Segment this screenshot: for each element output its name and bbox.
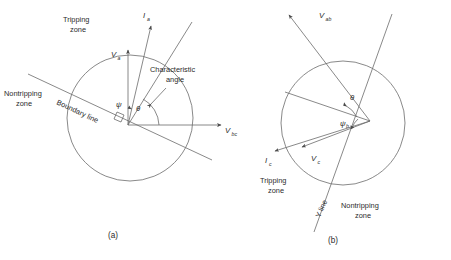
ia-label-main: I	[143, 11, 146, 20]
nontripping-zone-label-b-line1: Nontripping	[341, 201, 379, 210]
vab-vector-label-b: V ab	[319, 11, 331, 22]
nontripping-zone-label-a-line1: Nontripping	[4, 89, 42, 98]
tripping-zone-label-a-line1: Tripping	[63, 15, 89, 24]
vab-label-main: V	[319, 11, 325, 20]
vbc-label-sub: bc	[232, 131, 238, 137]
nontripping-zone-label-b-line2: zone	[355, 211, 371, 220]
tripping-zone-label-a-line2: zone	[70, 25, 86, 34]
vc-label-sub: c	[318, 159, 321, 165]
vbc-axis-label-shared: V	[225, 126, 231, 135]
theta-arc-a	[143, 99, 159, 125]
psi-angle-label-b-sub: b	[346, 123, 349, 129]
nontripping-zone-label-a-line2: zone	[16, 99, 32, 108]
vab-vector-line-b	[289, 15, 370, 121]
ic-vector-label-b: I c	[265, 156, 272, 167]
right-angle-marker-a	[114, 112, 124, 122]
panel-caption-a: (a)	[108, 231, 118, 240]
characteristic-angle-label-line1: Characteristic	[150, 65, 195, 74]
y-line-label-b: Y line	[314, 198, 330, 218]
panel-a: Tripping zone Nontripping zone Boundary …	[4, 11, 237, 240]
figure-container: Tripping zone Nontripping zone Boundary …	[0, 0, 451, 260]
tripping-zone-label-b-line2: zone	[268, 186, 284, 195]
psi-angle-label-a: ψ	[116, 100, 122, 109]
vc-label-main: V	[311, 154, 317, 163]
characteristic-angle-label-line2: angle	[166, 75, 184, 84]
ia-label-sub: a	[147, 16, 150, 22]
vab-label-sub: ab	[326, 16, 332, 22]
ic-label-sub: c	[269, 161, 272, 167]
vc-vector-line-b	[302, 121, 370, 147]
va-label-sub: a	[118, 55, 121, 61]
psi-angle-label-b-group: ψ b	[340, 119, 349, 129]
ia-vector-label-a: I a	[143, 11, 150, 22]
tripping-zone-label-b-line1: Tripping	[260, 176, 286, 185]
theta-arc-arrow-b	[343, 102, 347, 106]
panel-b: Tripping zone Nontripping zone Y line V …	[260, 11, 405, 245]
va-vector-label-a: V a	[111, 50, 121, 61]
vc-vector-label-b: V c	[311, 154, 321, 165]
y-line-b	[314, 14, 392, 232]
characteristic-angle-leader-a	[151, 88, 166, 104]
figure-svg: Tripping zone Nontripping zone Boundary …	[0, 0, 451, 260]
theta-arc-b	[345, 105, 357, 117]
ic-label-main: I	[265, 156, 268, 165]
va-label-main: V	[111, 50, 117, 59]
panel-caption-b: (b)	[328, 236, 338, 245]
ic-vector-line-b	[275, 121, 370, 151]
boundary-line-label-a: Boundary line	[55, 98, 100, 125]
